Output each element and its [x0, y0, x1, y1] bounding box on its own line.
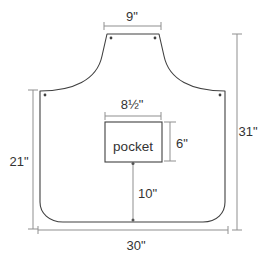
- hem-width-label: 30": [126, 238, 145, 253]
- bib-corner-dot-left: [110, 37, 113, 40]
- side-corner-dot-left: [44, 94, 47, 97]
- pocket-width-label: 8½": [121, 97, 144, 112]
- neck-width-label: 9": [126, 9, 138, 24]
- pocket-label: pocket: [113, 139, 153, 154]
- hem-width-dimension: [38, 226, 228, 234]
- pocket-to-hem-dimension: [132, 162, 135, 222]
- total-height-label: 31": [238, 124, 257, 139]
- bib-corner-dot-right: [154, 37, 157, 40]
- pocket-height-dimension: [164, 122, 176, 161]
- pocket-height-label: 6": [176, 136, 188, 151]
- side-height-label: 21": [9, 154, 28, 169]
- pocket-to-hem-label: 10": [138, 186, 157, 201]
- side-height-dimension: [28, 90, 38, 229]
- side-corner-dot-right: [219, 94, 222, 97]
- diagram-canvas: pocket 9" 8½" 6" 10": [0, 0, 265, 259]
- apron-pattern-diagram: pocket 9" 8½" 6" 10": [0, 0, 265, 259]
- pocket-width-dimension: [105, 112, 161, 120]
